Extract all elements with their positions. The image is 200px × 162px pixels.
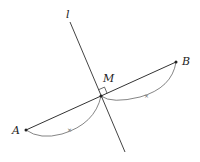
point-a [25, 129, 28, 132]
line-l [70, 22, 125, 152]
label-b: B [181, 55, 190, 68]
arc-am [26, 96, 101, 136]
label-l: l [66, 8, 70, 21]
equal-mark-am: × [67, 126, 72, 133]
geometry-diagram: × × l M B A [0, 0, 200, 162]
label-m: M [102, 72, 115, 85]
label-a: A [11, 124, 20, 137]
point-m [100, 95, 103, 98]
point-b [175, 61, 178, 64]
equal-mark-mb: × [144, 92, 149, 99]
